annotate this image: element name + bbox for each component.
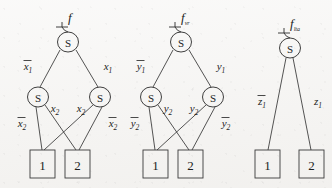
level1-edge-low-straight-left — [36, 107, 42, 150]
root-edge-low-right — [268, 58, 286, 150]
level1-edge-label-1-left: x2 — [17, 117, 27, 132]
svg-text:x2: x2 — [50, 102, 60, 117]
svg-text:y1: y1 — [216, 60, 226, 75]
terminal-low-label-right: 1 — [264, 158, 271, 173]
root-node-label-left: S — [65, 37, 71, 49]
root-edge-label-high-middle: y1 — [216, 60, 226, 75]
level1-edge-low-cross-middle — [158, 105, 189, 150]
root-edge-low-left — [40, 50, 60, 87]
svg-text:z1: z1 — [257, 95, 266, 110]
root-edge-label-low-right: z1 — [257, 95, 266, 110]
root-edge-label-low-middle: y1 — [136, 60, 146, 75]
terminal-high-label-left: 2 — [74, 158, 81, 173]
level1-node-high-label-middle: S — [210, 92, 216, 104]
terminal-high-label-right: 2 — [308, 158, 315, 173]
svg-text:x2: x2 — [76, 102, 86, 117]
function-label-middle: fvr — [181, 10, 190, 26]
function-label-left: f — [68, 10, 74, 25]
root-node-label-middle: S — [178, 37, 184, 49]
level1-node-low-label-middle: S — [148, 92, 154, 104]
svg-text:z1: z1 — [313, 95, 322, 110]
svg-text:x2: x2 — [108, 117, 118, 132]
function-label-right: flta — [290, 16, 300, 32]
root-edge-high-left — [76, 50, 98, 87]
level1-edge-low-cross-left — [45, 105, 76, 150]
level1-edge-label-2-middle: y2 — [163, 102, 173, 117]
level1-node-low-label-left: S — [35, 92, 41, 104]
level1-edge-label-1-middle: y2 — [130, 117, 140, 132]
root-edge-high-middle — [189, 50, 211, 87]
level1-edge-label-4-left: x2 — [108, 117, 118, 132]
level1-edge-label-3-left: x2 — [76, 102, 86, 117]
terminal-low-label-left: 1 — [39, 158, 46, 173]
root-edge-low-middle — [153, 50, 173, 87]
bdd-diagram-canvas: f S x1 x1 S S — [0, 0, 332, 188]
tree-middle: fvr S y1 y1 S S y2 — [130, 10, 231, 178]
svg-text:y2: y2 — [189, 102, 199, 117]
tree-right: flta S z1 z1 1 2 — [255, 16, 324, 178]
root-node-label-right: S — [287, 43, 293, 55]
root-edge-label-high-right: z1 — [313, 95, 322, 110]
terminal-low-label-middle: 1 — [152, 158, 159, 173]
svg-text:x2: x2 — [17, 117, 27, 132]
root-edge-label-low-left: x1 — [23, 60, 33, 75]
root-edge-label-high-left: x1 — [103, 60, 113, 75]
level1-node-high-label-left: S — [97, 92, 103, 104]
svg-text:y1: y1 — [136, 60, 146, 75]
svg-text:y2: y2 — [221, 117, 231, 132]
level1-edge-label-2-left: x2 — [50, 102, 60, 117]
svg-text:x1: x1 — [103, 60, 113, 75]
tree-left: f S x1 x1 S S — [17, 10, 118, 178]
level1-edge-label-4-middle: y2 — [221, 117, 231, 132]
level1-edge-label-3-middle: y2 — [189, 102, 199, 117]
svg-text:y2: y2 — [163, 102, 173, 117]
svg-text:x1: x1 — [23, 60, 33, 75]
svg-text:y2: y2 — [130, 117, 140, 132]
root-edge-high-right — [293, 58, 311, 150]
bdd-figure: f S x1 x1 S S — [0, 0, 332, 188]
level1-edge-low-straight-middle — [149, 107, 155, 150]
terminal-high-label-middle: 2 — [187, 158, 194, 173]
